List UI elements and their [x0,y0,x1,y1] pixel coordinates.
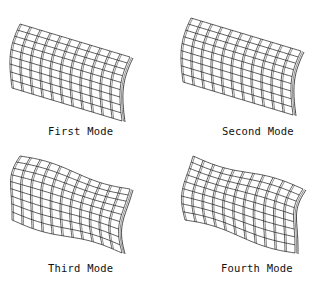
shell-mesh-second-mode [161,0,323,142]
mode-label-fourth: Fourth Mode [221,262,293,274]
mode-panel-fourth: Fourth Mode [161,142,322,284]
mode-label-first: First Mode [48,125,113,137]
mode-panel-first: First Mode [0,0,161,142]
mode-label-third: Third Mode [48,262,113,274]
mode-panel-third: Third Mode [0,142,161,284]
mode-panel-second: Second Mode [161,0,322,142]
mode-label-second: Second Mode [222,125,294,137]
shell-mesh-first-mode [0,0,161,142]
